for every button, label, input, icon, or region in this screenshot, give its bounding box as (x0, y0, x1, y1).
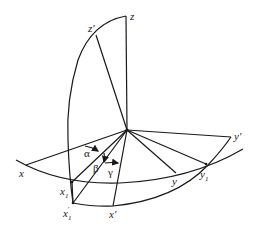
z-axis-line (126, 16, 127, 130)
label-x-prime: x′ (108, 208, 117, 220)
label-y1: y1 (199, 168, 208, 183)
label-z: z (129, 10, 135, 22)
label-y-prime: y′ (233, 130, 242, 142)
x1-prime-line (73, 130, 127, 203)
x1-prime-point (72, 202, 75, 205)
label-y: y (171, 175, 177, 187)
label-gamma: γ (107, 166, 113, 178)
equator-arc (16, 149, 243, 183)
y-axis-line (127, 130, 176, 173)
label-x: x (18, 167, 24, 179)
beta-arrow-icon (104, 153, 105, 162)
x-axis-line (26, 130, 127, 165)
gamma-arrow-icon (105, 163, 118, 164)
z-prime-axis-line (96, 35, 127, 130)
x1-point (71, 181, 74, 184)
label-x1: x1 (59, 185, 68, 200)
label-x1-prime: x1′ (62, 205, 71, 222)
label-z-prime: z′ (87, 22, 95, 34)
origin-point (125, 128, 128, 131)
y-prime-line (127, 130, 231, 137)
label-beta: β (93, 162, 99, 174)
label-alpha: α (84, 147, 90, 159)
euler-angle-diagram: z z′ x x1 x1′ x′ y y1 y′ α β γ (0, 0, 258, 226)
y1-point (205, 163, 208, 166)
meridian-arc (68, 16, 126, 203)
